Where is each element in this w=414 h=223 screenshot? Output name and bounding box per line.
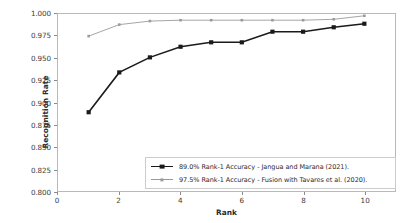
data-point-marker bbox=[117, 70, 121, 74]
chart-legend: 89.0% Rank-1 Accuracy - Jangua and Maran… bbox=[145, 157, 396, 189]
x-tick-label: 2 bbox=[116, 196, 121, 205]
legend-swatch-icon bbox=[151, 162, 173, 171]
y-tick-label: 1.000 bbox=[5, 9, 51, 18]
legend-item-1[interactable]: 97.5% Rank-1 Accuracy - Fusion with Tava… bbox=[151, 175, 391, 185]
y-tick-label: 0.875 bbox=[5, 120, 51, 129]
y-axis-title: Recognition Rate bbox=[41, 75, 50, 148]
x-tick-mark bbox=[119, 192, 120, 195]
x-tick-mark bbox=[304, 192, 305, 195]
y-tick-label: 0.975 bbox=[5, 31, 51, 40]
data-point-marker bbox=[87, 110, 91, 114]
series-0 bbox=[87, 22, 367, 115]
series-line bbox=[89, 16, 365, 36]
data-point-marker bbox=[209, 40, 213, 44]
x-tick-label: 8 bbox=[301, 196, 306, 205]
x-tick-mark bbox=[242, 192, 243, 195]
data-point-marker bbox=[363, 14, 366, 17]
y-tick-label: 0.925 bbox=[5, 76, 51, 85]
data-point-marker bbox=[302, 19, 305, 22]
data-point-marker bbox=[210, 19, 213, 22]
y-tick-label: 0.800 bbox=[5, 188, 51, 197]
data-point-marker bbox=[87, 35, 90, 38]
x-tick-label: 10 bbox=[361, 196, 370, 205]
data-point-marker bbox=[240, 40, 244, 44]
recognition-rate-cmc-chart: Recognition Rate Rank 0.8000.8250.8500.8… bbox=[0, 0, 414, 223]
x-tick-label: 0 bbox=[55, 196, 60, 205]
data-point-marker bbox=[178, 45, 182, 49]
data-point-marker bbox=[362, 22, 366, 26]
data-point-marker bbox=[301, 30, 305, 34]
data-point-marker bbox=[118, 23, 121, 26]
y-tick-label: 0.825 bbox=[5, 165, 51, 174]
x-tick-mark bbox=[365, 192, 366, 195]
series-line bbox=[89, 24, 365, 113]
data-point-marker bbox=[270, 30, 274, 34]
y-tick-label: 0.950 bbox=[5, 53, 51, 62]
data-point-marker bbox=[271, 19, 274, 22]
series-1 bbox=[87, 14, 365, 37]
y-tick-label: 0.850 bbox=[5, 143, 51, 152]
legend-label: 97.5% Rank-1 Accuracy - Fusion with Tava… bbox=[179, 176, 367, 184]
x-axis-title: Rank bbox=[57, 208, 396, 217]
data-point-marker bbox=[332, 18, 335, 21]
legend-swatch-icon bbox=[151, 175, 173, 184]
legend-item-0[interactable]: 89.0% Rank-1 Accuracy - Jangua and Maran… bbox=[151, 162, 391, 172]
y-tick-label: 0.900 bbox=[5, 98, 51, 107]
x-tick-label: 4 bbox=[178, 196, 183, 205]
data-point-marker bbox=[332, 25, 336, 29]
legend-label: 89.0% Rank-1 Accuracy - Jangua and Maran… bbox=[179, 163, 349, 171]
x-tick-label: 6 bbox=[240, 196, 245, 205]
data-point-marker bbox=[179, 19, 182, 22]
data-point-marker bbox=[149, 20, 152, 23]
x-tick-mark bbox=[180, 192, 181, 195]
x-tick-mark bbox=[57, 192, 58, 195]
data-point-marker bbox=[241, 19, 244, 22]
data-point-marker bbox=[148, 55, 152, 59]
